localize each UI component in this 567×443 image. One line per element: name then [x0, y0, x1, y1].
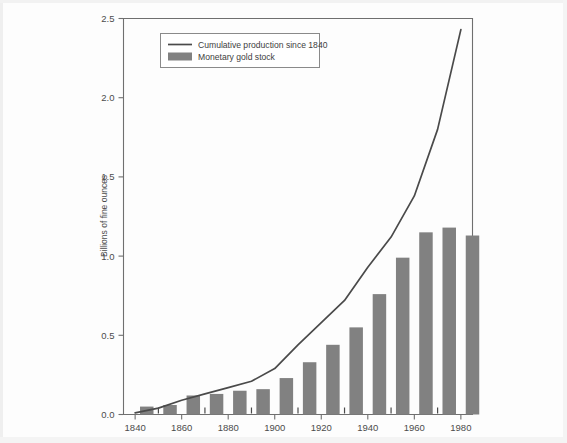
bar [233, 391, 246, 415]
bar [303, 362, 316, 414]
y-tick-label: 2.0 [101, 92, 114, 103]
page-background: 0.00.51.01.52.02.5 Billions of fine ounc… [0, 0, 567, 443]
x-tick-label: 1860 [171, 422, 192, 433]
bar [280, 378, 293, 414]
chart-figure: 0.00.51.01.52.02.5 Billions of fine ounc… [0, 0, 567, 443]
x-tick-label: 1880 [218, 422, 239, 433]
bar [373, 294, 386, 414]
bar [349, 327, 362, 414]
bar [442, 228, 455, 415]
x-tick-label: 1960 [404, 422, 425, 433]
bar [419, 232, 432, 414]
legend-label-cumulative-production: Cumulative production since 1840 [198, 40, 328, 50]
bar [396, 258, 409, 415]
bar [466, 236, 479, 415]
x-tick-label: 1840 [125, 422, 146, 433]
x-tick-label: 1900 [264, 422, 285, 433]
legend-swatch-marker [168, 53, 192, 61]
x-tick-label: 1920 [311, 422, 332, 433]
bar [326, 345, 339, 415]
x-tick-label: 1940 [357, 422, 378, 433]
chart-legend: Cumulative production since 1840 Monetar… [161, 34, 328, 68]
y-axis-title: Billions of fine ounces [99, 175, 109, 257]
bar [256, 389, 269, 414]
y-tick-label: 0.5 [101, 330, 114, 341]
legend-label-monetary-gold-stock: Monetary gold stock [198, 52, 276, 62]
y-tick-label: 0.0 [101, 409, 114, 420]
bar-series [140, 228, 479, 415]
bar [210, 394, 223, 415]
y-tick-label: 2.5 [101, 13, 114, 24]
line-series [135, 30, 461, 413]
x-tick-label: 1980 [450, 422, 471, 433]
line-path [135, 30, 461, 413]
chart-svg: 0.00.51.01.52.02.5 Billions of fine ounc… [0, 0, 567, 443]
